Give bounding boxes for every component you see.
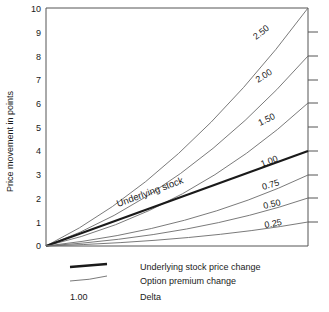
delta-label-150: 1.50: [256, 111, 276, 128]
y-tick-label: 4: [36, 146, 41, 156]
y-axis-title: Price movement in points: [5, 90, 15, 192]
legend-label-underlying-stock: Underlying stock price change: [140, 262, 261, 272]
delta-label-100: 1.00: [259, 153, 279, 168]
y-tick-label: 6: [36, 99, 41, 109]
y-tick-label: 3: [36, 170, 41, 180]
legend-label-delta: Delta: [140, 292, 161, 302]
y-tick-label: 1: [36, 218, 41, 228]
y-tick-label: 5: [36, 123, 41, 133]
legend-thin-line-sample: [70, 276, 107, 281]
delta-label-075: 0.75: [261, 177, 281, 191]
underlying-stock-annotation: Underlying stock: [115, 174, 185, 208]
y-tick-label: 7: [36, 75, 41, 85]
y-tick-label: 0: [36, 241, 41, 251]
y-tick-label: 2: [36, 194, 41, 204]
delta-label-025: 0.25: [264, 217, 283, 230]
delta-price-movement-chart: Price movement in points 10 9 8 7 6 5 4 …: [0, 0, 329, 312]
y-tick-label: 9: [36, 28, 41, 38]
legend-thick-line-sample: [70, 264, 107, 267]
option-premium-curve-200: [46, 56, 308, 246]
delta-label-200: 2.00: [254, 67, 274, 85]
y-tick-label: 8: [36, 52, 41, 62]
legend-delta-value: 1.00: [70, 292, 88, 302]
delta-label-250: 2.50: [251, 23, 271, 42]
delta-label-050: 0.50: [262, 197, 281, 211]
y-tick-label: 10: [31, 4, 41, 14]
legend-label-option-premium: Option premium change: [140, 276, 236, 286]
